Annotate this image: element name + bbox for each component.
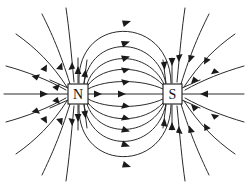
arrowhead-ur-1 (176, 54, 183, 62)
field-line-ul-2 (42, 14, 70, 84)
south-pole-label: S (169, 87, 177, 102)
field-line-ll-3 (16, 101, 67, 154)
arrowhead-lr-1 (176, 126, 183, 134)
arrowhead-arc-above-2 (121, 67, 130, 73)
field-arc-below-4 (84, 104, 166, 142)
field-line-lr-1 (177, 106, 185, 181)
arrowhead-stub-s-bot-2 (161, 118, 168, 127)
arcs-below (79, 99, 171, 167)
field-line-ur-1 (177, 8, 185, 82)
arrowhead-center-axis (118, 91, 126, 98)
arrowhead-lr-2 (188, 126, 195, 134)
arrowhead-arc-above-1 (121, 79, 130, 85)
arrowhead-arc-below-5 (122, 161, 131, 167)
magnetic-field-diagram: N S (0, 0, 248, 189)
arrowhead-right-axis (200, 91, 208, 98)
arrowhead-left-axis (40, 91, 48, 98)
arrowhead-ul-3 (40, 65, 47, 73)
arrowhead-ll-3 (40, 116, 47, 124)
arrowhead-arc-below-1 (121, 102, 130, 108)
arrowhead-ur-4 (211, 68, 219, 74)
arrowhead-center-axis-2 (94, 91, 102, 98)
field-line-ll-2 (42, 104, 70, 175)
arrowhead-ul-2 (56, 63, 63, 71)
arrowhead-stub-s-top-1 (169, 58, 176, 66)
field-line-ur-2 (181, 14, 209, 84)
field-arc-above-4 (84, 47, 166, 85)
arrowhead-ll-2 (56, 118, 63, 126)
arrowhead-stub-s-bot-1 (169, 122, 176, 130)
arrowhead-arc-above-5 (122, 21, 131, 27)
south-pole-marker[interactable]: S (163, 84, 182, 104)
field-line-lr-2 (181, 104, 209, 175)
arrowhead-lr-4 (211, 114, 219, 120)
field-lines-canvas: N S (0, 0, 248, 189)
outer-lines-lower-left (6, 98, 75, 181)
field-line-ll-1 (66, 106, 74, 181)
outer-lines-upper-right (176, 8, 244, 90)
north-pole-marker[interactable]: N (68, 84, 88, 104)
arcs-above (79, 21, 171, 89)
field-line-ul-3 (16, 34, 67, 87)
arrowhead-ur-2 (188, 55, 195, 63)
outer-lines-lower-right (176, 98, 244, 181)
north-pole-label: N (73, 87, 83, 102)
outer-lines-upper-left (6, 8, 75, 90)
axis-straight-lines (4, 91, 244, 98)
arrowhead-ul-1 (68, 62, 75, 70)
field-line-ul-1 (66, 8, 74, 82)
arrowhead-stub-s-top-2 (161, 61, 168, 70)
arrowhead-ll-1 (68, 118, 75, 126)
arrowhead-arc-below-2 (121, 114, 130, 120)
